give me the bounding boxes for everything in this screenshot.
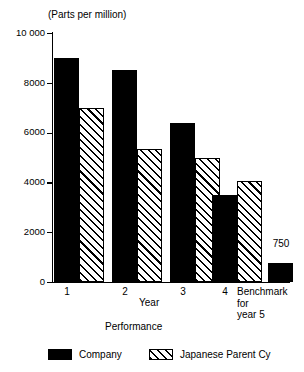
legend-item-japanese-parent: Japanese Parent Cy (149, 349, 271, 360)
x-axis-title: Year (139, 297, 159, 309)
x-axis-line (52, 282, 290, 283)
y-tick-label-0: 0 (40, 277, 45, 287)
x-label-year-2: 2 (112, 286, 138, 298)
x-label-year-3: 3 (170, 286, 196, 298)
x-label-year-1: 1 (54, 286, 80, 298)
legend-swatch-company-icon (48, 349, 72, 360)
x-label-benchmark-line-3: year 5 (237, 309, 304, 321)
bar-chart: (Parts per million) 0 2000 4000 6000 800… (0, 0, 304, 372)
legend-item-company: Company (48, 349, 122, 360)
chart-legend: Company Japanese Parent Cy (0, 349, 304, 367)
bar-value-label-750: 750 (263, 238, 299, 249)
bar-company-year-1 (54, 58, 79, 282)
x-label-benchmark-line-1: Benchmark (237, 286, 304, 298)
y-tick-0 (47, 282, 53, 283)
legend-label-japanese-parent: Japanese Parent Cy (180, 349, 271, 360)
bar-parent-year-4 (237, 181, 262, 282)
bar-parent-year-1 (79, 108, 104, 282)
legend-label-company: Company (79, 349, 122, 360)
chart-subtitle: Performance (105, 321, 162, 333)
x-label-year-4: 4 (212, 286, 238, 298)
bar-company-year-2 (112, 70, 137, 282)
bar-benchmark-year-5 (268, 263, 293, 282)
y-tick-label-8000: 8000 (24, 78, 45, 88)
bar-company-year-3 (170, 123, 195, 282)
y-tick-label-2000: 2000 (24, 227, 45, 237)
chart-unit-title: (Parts per million) (48, 9, 126, 21)
bar-parent-year-2 (137, 149, 162, 282)
y-tick-label-6000: 6000 (24, 127, 45, 137)
legend-swatch-japanese-parent-icon (149, 349, 173, 360)
x-label-benchmark-line-2: for (237, 298, 304, 310)
plot-area: 750 (53, 33, 290, 282)
y-tick-label-10000: 10 000 (16, 28, 45, 38)
y-tick-label-4000: 4000 (24, 177, 45, 187)
bar-company-year-4 (212, 195, 237, 282)
